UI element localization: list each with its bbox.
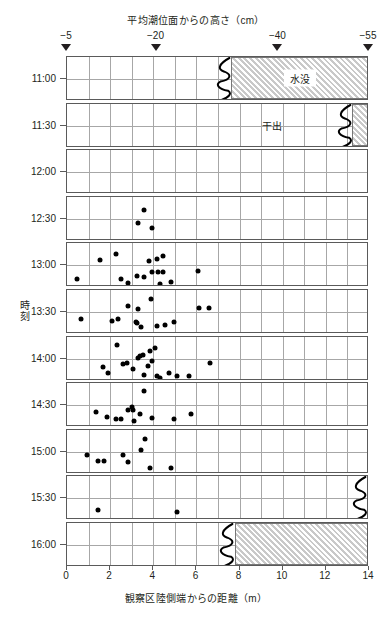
x-axis-tick-label-7: 14 (362, 570, 373, 581)
data-point (131, 419, 136, 424)
gridline-horizontal (67, 172, 367, 173)
gridline-vertical (153, 150, 154, 192)
gridline-vertical (283, 476, 284, 518)
gridline-horizontal (67, 219, 367, 220)
water-line-wiggle (218, 523, 236, 566)
gridline-vertical (304, 337, 305, 379)
gridline-vertical (110, 523, 111, 565)
gridline-vertical (175, 104, 176, 146)
gridline-vertical (240, 150, 241, 192)
data-point (160, 270, 165, 275)
gridline-vertical (196, 523, 197, 565)
x-axis-tick-label-4: 8 (236, 570, 242, 581)
x-axis-tick-label-1: 2 (106, 570, 112, 581)
data-point (154, 257, 159, 262)
time-axis-tick (60, 264, 66, 265)
gridline-horizontal (67, 498, 367, 499)
data-point (171, 319, 176, 324)
data-point (135, 274, 140, 279)
time-panel-1500 (66, 429, 368, 473)
gridline-horizontal (67, 265, 367, 266)
gridline-horizontal (67, 405, 367, 406)
gridline-vertical (153, 57, 154, 99)
gridline-vertical (261, 337, 262, 379)
gridline-vertical (283, 337, 284, 379)
time-axis-tick (60, 218, 66, 219)
x-axis-tick-label-2: 4 (150, 570, 156, 581)
time-axis-label-1300: 13:00 (10, 259, 56, 270)
x-axis-tick-label-3: 6 (193, 570, 199, 581)
data-point (150, 359, 155, 364)
data-point (207, 305, 212, 310)
time-panel-1600 (66, 522, 368, 566)
gridline-vertical (175, 290, 176, 332)
gridline-vertical (218, 290, 219, 332)
gridline-vertical (196, 150, 197, 192)
gridline-vertical (347, 337, 348, 379)
time-panel-1400 (66, 336, 368, 380)
data-point (126, 460, 131, 465)
gridline-vertical (240, 290, 241, 332)
gridline-vertical (132, 476, 133, 518)
gridline-vertical (326, 337, 327, 379)
time-panel-1300 (66, 242, 368, 286)
data-point (168, 280, 173, 285)
gridline-vertical (196, 197, 197, 239)
gridline-vertical (304, 290, 305, 332)
gridline-vertical (218, 104, 219, 146)
gridline-vertical (218, 197, 219, 239)
time-axis-label-1330: 13:30 (10, 306, 56, 317)
time-axis-tick (60, 171, 66, 172)
time-panel-1530 (66, 475, 368, 519)
gridline-vertical (283, 290, 284, 332)
data-point (142, 437, 147, 442)
time-axis-label-1230: 12:30 (10, 212, 56, 223)
data-point (141, 373, 146, 378)
data-point (96, 458, 101, 463)
gridline-vertical (110, 197, 111, 239)
data-point (118, 417, 123, 422)
data-point (96, 507, 101, 512)
time-axis-tick (60, 125, 66, 126)
gridline-vertical (175, 523, 176, 565)
gridline-vertical (89, 197, 90, 239)
x-axis-tick-label-5: 10 (276, 570, 287, 581)
data-point (94, 410, 99, 415)
x-axis-tick-label-0: 0 (63, 570, 69, 581)
gridline-vertical (153, 104, 154, 146)
gridline-vertical (304, 243, 305, 285)
gridline-vertical (132, 337, 133, 379)
gridline-vertical (196, 383, 197, 425)
gridline-vertical (153, 243, 154, 285)
bottom-axis-title: 観察区陸側端からの距離（m） (0, 590, 392, 605)
data-point (149, 296, 154, 301)
gridline-vertical (196, 476, 197, 518)
data-point (126, 303, 131, 308)
gridline-vertical (110, 383, 111, 425)
gridline-vertical (283, 430, 284, 472)
data-point (125, 360, 130, 365)
data-point (101, 458, 106, 463)
time-axis-tick (60, 358, 66, 359)
gridline-vertical (89, 476, 90, 518)
gridline-vertical (304, 197, 305, 239)
time-panel-1130: 干出 (66, 103, 368, 147)
data-point (167, 370, 172, 375)
data-point (175, 374, 180, 379)
gridline-vertical (240, 243, 241, 285)
data-point (150, 225, 155, 230)
gridline-vertical (132, 523, 133, 565)
data-point (100, 365, 105, 370)
gridline-vertical (347, 383, 348, 425)
hatched-region (235, 523, 368, 565)
time-panel-1430 (66, 382, 368, 426)
data-point (136, 221, 141, 226)
data-point (141, 389, 146, 394)
time-axis-label-1430: 14:30 (10, 399, 56, 410)
gridline-vertical (240, 197, 241, 239)
gridline-vertical (196, 243, 197, 285)
data-point (154, 324, 159, 329)
data-point (139, 324, 144, 329)
gridline-vertical (110, 57, 111, 99)
water-line-wiggle (336, 104, 354, 147)
